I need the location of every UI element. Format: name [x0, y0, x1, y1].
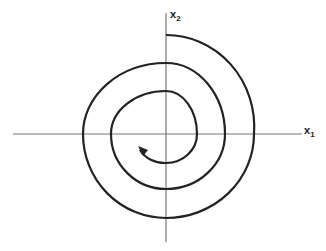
spiral-trajectory — [83, 35, 254, 218]
spiral-diagram — [0, 0, 326, 251]
x1-axis-label: x1 — [304, 124, 315, 139]
x2-axis-label: x2 — [170, 8, 181, 23]
diagram-canvas: x2 x1 — [0, 0, 326, 251]
